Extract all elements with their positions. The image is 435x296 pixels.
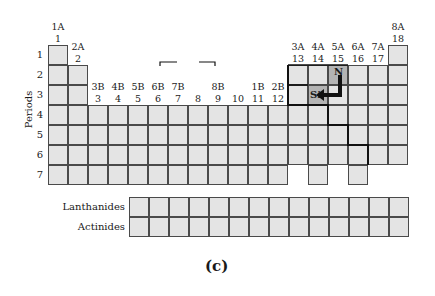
element-cell-p7-g3 (88, 165, 108, 185)
lanthanides-label: Lanthanides (55, 201, 125, 212)
group-label-new-7: 7 (168, 93, 188, 104)
period-number-2: 2 (35, 69, 45, 80)
period-number-6: 6 (35, 149, 45, 160)
element-cell-p2-g18 (388, 65, 408, 85)
lanthanide-cell-7 (249, 197, 269, 217)
actinide-cell-14 (389, 217, 409, 237)
lanthanide-cell-8 (269, 197, 289, 217)
actinide-cell-2 (149, 217, 169, 237)
element-cell-p4-g10 (228, 105, 248, 125)
group-label-old-17: 7A (368, 41, 388, 52)
element-cell-p2-g16 (348, 65, 368, 85)
group-label-new-6: 6 (148, 93, 168, 104)
element-cell-p5-g11 (248, 125, 268, 145)
element-cell-p4-g3 (88, 105, 108, 125)
actinide-cell-8 (269, 217, 289, 237)
group-label-new-10: 10 (228, 93, 248, 104)
element-cell-p7-g16 (348, 165, 368, 185)
element-cell-p7-g12 (268, 165, 288, 185)
element-cell-p4-g14 (308, 105, 328, 125)
group-label-old-13: 3A (288, 41, 308, 52)
group-label-old-9: 8B (208, 81, 228, 92)
element-cell-p3-g1 (48, 85, 68, 105)
element-cell-p6-g18 (388, 145, 408, 165)
element-cell-p3-g2 (68, 85, 88, 105)
group-label-old-2: 2A (68, 41, 88, 52)
element-cell-p6-g3 (88, 145, 108, 165)
element-cell-p7-g6 (148, 165, 168, 185)
element-cell-p5-g16 (348, 125, 368, 145)
actinide-cell-7 (249, 217, 269, 237)
element-cell-p6-g4 (108, 145, 128, 165)
element-cell-p4-g5 (128, 105, 148, 125)
group-label-new-1: 1 (48, 33, 68, 44)
lanthanide-cell-14 (389, 197, 409, 217)
element-cell-p7-g8 (188, 165, 208, 185)
group-label-new-12: 12 (268, 93, 288, 104)
periods-axis-title: Periods (23, 91, 34, 129)
group-label-old-6: 6B (148, 81, 168, 92)
element-cell-p6-g17 (368, 145, 388, 165)
element-cell-p6-g14 (308, 145, 328, 165)
element-cell-p7-g10 (228, 165, 248, 185)
actinide-cell-5 (209, 217, 229, 237)
element-cell-p5-g5 (128, 125, 148, 145)
element-cell-p4-g11 (248, 105, 268, 125)
lanthanide-cell-6 (229, 197, 249, 217)
element-cell-p5-g3 (88, 125, 108, 145)
group-label-old-15: 5A (328, 41, 348, 52)
element-cell-p1-g18 (388, 45, 408, 65)
lanthanide-cell-3 (169, 197, 189, 217)
element-cell-p6-g7 (168, 145, 188, 165)
element-cell-p6-g15 (328, 145, 348, 165)
element-cell-p4-g9 (208, 105, 228, 125)
element-cell-p5-g4 (108, 125, 128, 145)
element-cell-p7-g11 (248, 165, 268, 185)
group-label-new-13: 13 (288, 53, 308, 64)
actinides-label: Actinides (55, 221, 125, 232)
group-label-old-12: 2B (268, 81, 288, 92)
actinide-cell-9 (289, 217, 309, 237)
element-cell-p6-g16 (348, 145, 368, 165)
group-label-old-3: 3B (88, 81, 108, 92)
element-cell-p5-g1 (48, 125, 68, 145)
element-cell-p3-g13 (288, 85, 308, 105)
actinide-cell-4 (189, 217, 209, 237)
group-label-new-15: 15 (328, 53, 348, 64)
element-cell-p5-g13 (288, 125, 308, 145)
element-cell-p7-g9 (208, 165, 228, 185)
element-cell-p6-g8 (188, 145, 208, 165)
group-label-old-14: 4A (308, 41, 328, 52)
period-number-7: 7 (35, 169, 45, 180)
actinide-cell-12 (349, 217, 369, 237)
group-label-new-8: 8 (188, 93, 208, 104)
element-cell-p5-g6 (148, 125, 168, 145)
element-cell-p4-g18 (388, 105, 408, 125)
element-cell-p3-g15 (328, 85, 348, 105)
element-cell-p3-g18 (388, 85, 408, 105)
element-cell-p7-g5 (128, 165, 148, 185)
element-cell-p4-g8 (188, 105, 208, 125)
element-cell-p5-g17 (368, 125, 388, 145)
lanthanide-cell-2 (149, 197, 169, 217)
group-label-new-3: 3 (88, 93, 108, 104)
element-cell-p1-g1 (48, 45, 68, 65)
lanthanide-cell-9 (289, 197, 309, 217)
element-cell-p5-g12 (268, 125, 288, 145)
element-cell-p5-g2 (68, 125, 88, 145)
element-symbol-n: N (334, 66, 343, 77)
element-cell-p6-g13 (288, 145, 308, 165)
element-cell-p7-g1 (48, 165, 68, 185)
group-label-new-2: 2 (68, 53, 88, 64)
group-label-new-14: 14 (308, 53, 328, 64)
period-number-1: 1 (35, 49, 45, 60)
group-label-old-7: 7B (168, 81, 188, 92)
element-cell-p5-g9 (208, 125, 228, 145)
element-cell-p7-g14 (308, 165, 328, 185)
element-cell-p3-g17 (368, 85, 388, 105)
element-cell-p6-g6 (148, 145, 168, 165)
element-cell-p4-g6 (148, 105, 168, 125)
element-cell-p6-g9 (208, 145, 228, 165)
group-label-old-1: 1A (48, 21, 68, 32)
element-cell-p5-g7 (168, 125, 188, 145)
